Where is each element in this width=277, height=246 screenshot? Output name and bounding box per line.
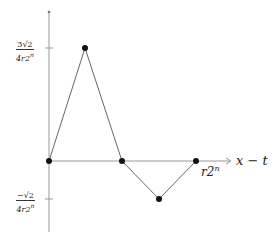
tick-label-pos-denominator: 4r2n xyxy=(16,50,34,63)
x-axis-label: x − t xyxy=(236,153,268,168)
den-exp: n xyxy=(30,51,34,58)
point-peak xyxy=(82,45,88,51)
piecewise-curve xyxy=(49,48,196,199)
point-zero-crossing xyxy=(119,158,125,164)
piecewise-linear-diagram: 3√2 4r2n −√2 4r2n r2n x − t xyxy=(0,0,277,246)
y-axis-tip xyxy=(48,11,51,14)
x-tick-base: r2 xyxy=(201,165,214,179)
tick-label-neg-numerator: −√2 xyxy=(16,191,35,201)
den-base: 4r2 xyxy=(16,54,30,63)
x-tick-label-r2n: r2n xyxy=(201,164,220,179)
y-tick-label-negative: −√2 4r2n xyxy=(16,191,35,214)
point-origin xyxy=(46,158,52,164)
point-trough xyxy=(156,196,162,202)
diagram-svg xyxy=(0,0,277,246)
point-r2n xyxy=(193,158,199,164)
den-exp: n xyxy=(31,202,35,209)
den-base: 4r2 xyxy=(17,205,31,214)
tick-label-pos-numerator: 3√2 xyxy=(16,40,34,50)
tick-label-neg-denominator: 4r2n xyxy=(16,201,35,214)
y-tick-label-positive: 3√2 4r2n xyxy=(16,40,34,63)
x-tick-exp: n xyxy=(214,164,219,173)
